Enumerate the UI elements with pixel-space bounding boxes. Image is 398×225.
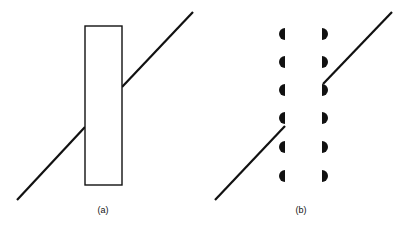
left-half-circle-marker-3 <box>279 84 285 96</box>
panel-a <box>17 12 193 200</box>
left-half-circle-marker-1 <box>279 28 285 40</box>
left-half-circle-marker-4 <box>279 112 285 124</box>
right-half-circle-marker-3 <box>322 84 328 96</box>
left-half-circle-marker-2 <box>279 56 285 68</box>
left-half-circle-marker-5 <box>279 141 285 153</box>
diagram-canvas <box>0 0 398 225</box>
line-segment-2 <box>122 12 193 87</box>
panel-b <box>215 12 392 200</box>
right-half-circle-marker-4 <box>322 112 328 124</box>
line-segment-1 <box>215 126 285 200</box>
left-half-circle-marker-6 <box>279 170 285 182</box>
right-half-circle-marker-5 <box>322 141 328 153</box>
line-segment-2 <box>323 12 392 84</box>
right-half-circle-marker-6 <box>322 170 328 182</box>
right-half-circle-marker-2 <box>322 56 328 68</box>
barrier-rectangle <box>85 26 122 185</box>
line-segment-1 <box>17 127 85 200</box>
panel-a-label: (a) <box>98 205 109 215</box>
right-half-circle-marker-1 <box>322 28 328 40</box>
panel-b-label: (b) <box>296 205 307 215</box>
